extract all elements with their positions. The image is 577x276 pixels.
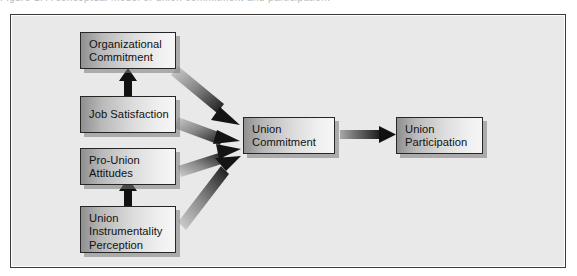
arrow-job-satisfaction-to-organizational-commitment (119, 68, 137, 97)
node-label-line: Union (405, 123, 482, 136)
node-label-line: Instrumentality (89, 225, 175, 238)
node-label-line: Pro-Union (89, 154, 175, 167)
node-label-line: Union (89, 212, 175, 225)
node-label-line: Commitment (252, 136, 334, 149)
node-label-line: Perception (89, 239, 175, 252)
node-label-line: Participation (405, 136, 482, 149)
node-job-satisfaction[interactable]: Job Satisfaction (80, 96, 176, 133)
node-union-participation[interactable]: Union Participation (396, 117, 483, 154)
arrow-organizational-commitment-to-union-commitment (171, 66, 240, 125)
node-label-line: Commitment (89, 51, 175, 64)
node-label-line: Attitudes (89, 167, 175, 180)
node-organizational-commitment[interactable]: Organizational Commitment (80, 32, 176, 69)
node-label-line: Job Satisfaction (89, 108, 175, 121)
node-pro-union-attitudes[interactable]: Pro-Union Attitudes (80, 148, 176, 185)
node-union-commitment[interactable]: Union Commitment (243, 117, 335, 154)
arrow-union-commitment-to-union-participation (340, 126, 396, 143)
node-label-line: Union (252, 123, 334, 136)
node-label-line: Organizational (89, 38, 175, 51)
node-union-instrumentality-perception[interactable]: Union Instrumentality Perception (80, 206, 176, 253)
figure-stage: Figure 1. A conceptual model of union co… (0, 0, 577, 276)
